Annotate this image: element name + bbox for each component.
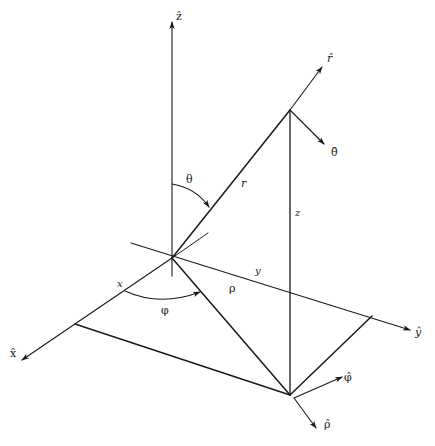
origin-stub-line xyxy=(172,233,208,258)
theta-arc xyxy=(172,184,209,207)
rho-line xyxy=(172,258,290,395)
y-hat-label: ŷ xyxy=(414,326,422,339)
projection-q-to-y xyxy=(290,316,372,395)
rho-hat-label: ρ̂ xyxy=(324,418,330,431)
r-hat-label: r̂ xyxy=(327,52,333,65)
phi-hat-vector xyxy=(294,377,342,398)
theta-hat-vector xyxy=(290,110,324,144)
phi-label: φ xyxy=(161,304,169,317)
phi-hat-label: φ̂ xyxy=(344,371,352,384)
y-label: y xyxy=(254,265,261,276)
phi-arc xyxy=(125,291,200,299)
theta-label: θ xyxy=(186,173,193,186)
projection-x-to-q xyxy=(75,324,290,395)
z-label: z xyxy=(294,207,301,218)
rho-label: ρ xyxy=(229,282,235,295)
rho-hat-vector xyxy=(294,398,316,428)
coordinate-diagram: ẑ r̂ θ̂ θ r z x y φ ρ x̂ ŷ φ̂ ρ̂ xyxy=(0,0,435,446)
z-hat-label: ẑ xyxy=(176,10,182,23)
r-hat-vector xyxy=(290,67,322,110)
x-label: x xyxy=(117,278,123,289)
x-hat-label: x̂ xyxy=(10,347,17,360)
x-axis xyxy=(22,258,172,360)
r-label: r xyxy=(241,177,247,190)
theta-hat-label: θ̂ xyxy=(331,146,338,159)
